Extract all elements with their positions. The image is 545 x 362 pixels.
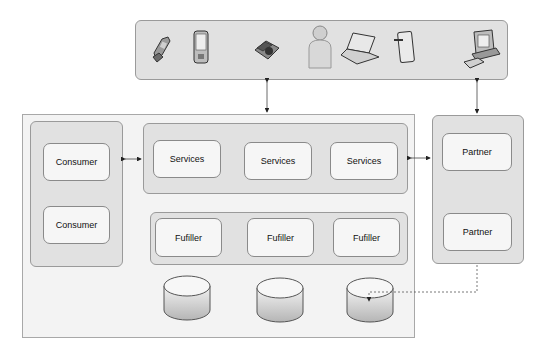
services-box-2[interactable]: Services: [244, 142, 312, 180]
fulfiller-box-1[interactable]: Fufiller: [155, 218, 222, 257]
fulfiller-label: Fufiller: [175, 233, 202, 243]
fulfiller-label: Fufiller: [353, 233, 380, 243]
pda-icon: [193, 30, 209, 64]
desktop-computer-icon: [462, 28, 502, 70]
consumer-box-2[interactable]: Consumer: [43, 206, 110, 244]
services-box-3[interactable]: Services: [330, 142, 398, 180]
services-label: Services: [261, 156, 296, 166]
desk-telephone-icon: [252, 38, 282, 62]
person-icon: [307, 24, 333, 69]
partner-box-1[interactable]: Partner: [442, 133, 512, 171]
laptop-icon: [339, 31, 381, 65]
services-box-1[interactable]: Services: [153, 140, 221, 178]
partner-label: Partner: [462, 147, 492, 157]
consumer-label: Consumer: [56, 157, 98, 167]
fulfiller-box-2[interactable]: Fufiller: [247, 218, 314, 257]
fulfiller-label: Fufiller: [267, 233, 294, 243]
consumer-box-1[interactable]: Consumer: [43, 143, 110, 181]
partner-box-2[interactable]: Partner: [443, 213, 512, 251]
database-icon: [162, 274, 212, 322]
database-icon: [345, 276, 395, 324]
services-label: Services: [347, 156, 382, 166]
partner-label: Partner: [463, 227, 493, 237]
services-label: Services: [170, 154, 205, 164]
tablet-pen-icon: [393, 30, 415, 64]
fulfiller-box-3[interactable]: Fufiller: [333, 218, 400, 257]
mobile-flip-phone-icon: [150, 33, 174, 65]
database-icon: [255, 276, 305, 324]
consumer-label: Consumer: [56, 220, 98, 230]
